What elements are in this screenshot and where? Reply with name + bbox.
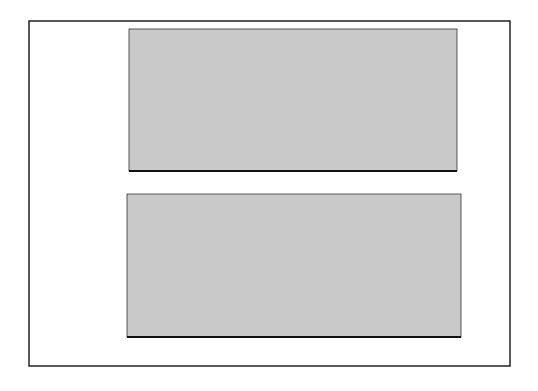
mortgage-chart bbox=[0, 0, 538, 391]
outstanding-principal-plot bbox=[129, 29, 457, 171]
plot-area-top bbox=[129, 29, 457, 171]
plot-area-bottom bbox=[127, 194, 461, 337]
payments-plot bbox=[127, 194, 461, 337]
